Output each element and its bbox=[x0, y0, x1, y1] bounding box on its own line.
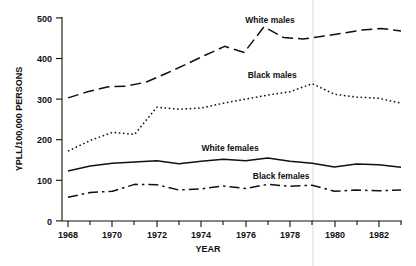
x-axis-tick-labels: 1968 1970 1972 1974 1976 1978 1980 1982 bbox=[58, 230, 389, 240]
x-axis-ticks bbox=[68, 221, 401, 227]
y-axis-tick-labels: 500 400 300 200 100 0 bbox=[37, 14, 52, 227]
x-tick-label: 1976 bbox=[236, 230, 256, 240]
series-line-white-males bbox=[68, 27, 401, 98]
series-line-black-males bbox=[68, 84, 401, 151]
series-annotations: White males Black males White females Bl… bbox=[201, 15, 309, 181]
series-line-white-females bbox=[68, 158, 401, 171]
x-tick-label: 1970 bbox=[102, 230, 122, 240]
y-tick-label: 500 bbox=[37, 14, 52, 24]
y-tick-label: 100 bbox=[37, 176, 52, 186]
x-tick-label: 1978 bbox=[280, 230, 300, 240]
series-line-black-females bbox=[68, 184, 401, 197]
chart-container: 500 400 300 200 100 0 bbox=[0, 0, 416, 266]
y-tick-label: 400 bbox=[37, 54, 52, 64]
series-label-black-males: Black males bbox=[248, 70, 297, 80]
y-tick-label: 0 bbox=[47, 217, 52, 227]
x-tick-label: 1982 bbox=[369, 230, 389, 240]
y-axis-title: YPLL/100,000 PERSONS bbox=[14, 67, 24, 172]
line-chart-svg: 500 400 300 200 100 0 bbox=[0, 0, 416, 266]
x-axis-title: YEAR bbox=[195, 244, 221, 254]
series-curves bbox=[68, 27, 401, 198]
series-label-black-females: Black females bbox=[253, 171, 310, 181]
y-axis-ticks bbox=[56, 18, 62, 221]
y-tick-label: 200 bbox=[37, 135, 52, 145]
series-label-white-females: White females bbox=[201, 143, 258, 153]
x-tick-label: 1980 bbox=[325, 230, 345, 240]
x-tick-label: 1968 bbox=[58, 230, 78, 240]
x-tick-label: 1972 bbox=[147, 230, 167, 240]
series-label-white-males: White males bbox=[245, 15, 295, 25]
x-tick-label: 1974 bbox=[191, 230, 211, 240]
y-tick-label: 300 bbox=[37, 95, 52, 105]
